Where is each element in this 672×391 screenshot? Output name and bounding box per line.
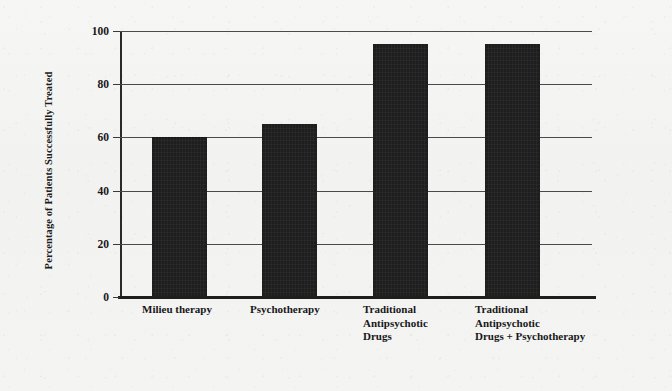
y-tick-label-80: 80 xyxy=(98,78,110,90)
bar xyxy=(262,124,317,297)
y-tick-mark-40 xyxy=(113,191,120,192)
y-tick-label-60: 60 xyxy=(98,131,110,143)
y-tick-label-40: 40 xyxy=(98,185,110,197)
bar-chart-figure: Percentage of Patients Successfully Trea… xyxy=(0,0,672,391)
bars-group xyxy=(120,31,592,297)
y-tick-mark-80 xyxy=(113,84,120,85)
x-axis-label: Milieu therapy xyxy=(142,303,212,317)
y-tick-mark-100 xyxy=(113,31,120,32)
plot-area: 020406080100 xyxy=(120,31,592,297)
y-tick-mark-20 xyxy=(113,244,120,245)
y-tick-mark-0 xyxy=(113,297,120,298)
bar xyxy=(485,44,540,297)
x-axis-label: Psychotherapy xyxy=(250,303,320,317)
x-axis-label: Traditional Antipsychotic Drugs xyxy=(363,303,428,344)
y-tick-label-0: 0 xyxy=(103,291,109,303)
y-tick-label-20: 20 xyxy=(98,238,110,250)
y-tick-label-100: 100 xyxy=(92,25,109,37)
x-axis-category-labels: Milieu therapyPsychotherapyTraditional A… xyxy=(120,303,592,383)
y-axis-title: Percentage of Patients Successfully Trea… xyxy=(43,31,54,311)
y-tick-mark-60 xyxy=(113,137,120,138)
bar xyxy=(152,137,207,297)
bar xyxy=(373,44,428,297)
x-axis-label: Traditional Antipsychotic Drugs + Psycho… xyxy=(475,303,585,344)
